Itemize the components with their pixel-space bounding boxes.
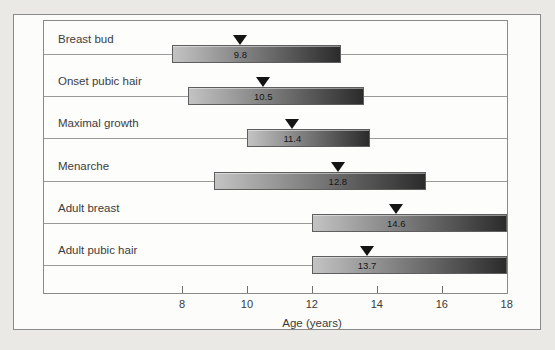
range-bar [312, 214, 507, 232]
row-label: Menarche [58, 160, 109, 173]
mean-value-label: 10.5 [254, 87, 273, 105]
x-axis-tick [312, 286, 313, 293]
mean-marker-triangle-icon [331, 162, 345, 172]
row-label: Adult pubic hair [58, 244, 137, 257]
x-axis-tick [442, 286, 443, 293]
row-label: Adult breast [58, 202, 119, 215]
x-axis-tick-label: 18 [501, 298, 513, 310]
mean-value-label: 14.6 [387, 214, 406, 232]
x-axis-tick [247, 286, 248, 293]
row-label: Breast bud [58, 33, 114, 46]
x-axis-title: Age (years) [282, 317, 341, 329]
mean-marker-triangle-icon [233, 35, 247, 45]
range-bar [172, 45, 341, 63]
mean-marker-triangle-icon [360, 246, 374, 256]
row-label: Onset pubic hair [58, 75, 142, 88]
range-bar [312, 256, 507, 274]
x-axis-tick-label: 10 [241, 298, 253, 310]
range-bar [188, 87, 363, 105]
x-axis-tick-label: 12 [306, 298, 318, 310]
row-label: Maximal growth [58, 117, 139, 130]
figure-border-box: Age (years) Breast bud9.8Onset pubic hai… [13, 14, 541, 330]
x-axis-tick [377, 286, 378, 293]
range-bar [214, 172, 425, 190]
figure-canvas: Age (years) Breast bud9.8Onset pubic hai… [0, 0, 555, 350]
x-axis-tick-label: 14 [371, 298, 383, 310]
mean-marker-triangle-icon [256, 77, 270, 87]
plot-area: Age (years) Breast bud9.8Onset pubic hai… [43, 20, 508, 294]
mean-value-label: 11.4 [283, 129, 301, 147]
mean-value-label: 9.8 [234, 45, 247, 63]
mean-marker-triangle-icon [389, 204, 403, 214]
mean-marker-triangle-icon [285, 119, 299, 129]
range-bar [247, 129, 370, 147]
x-axis-tick [182, 286, 183, 293]
x-axis-tick-label: 8 [179, 298, 185, 310]
mean-value-label: 13.7 [358, 256, 377, 274]
x-axis-tick-label: 16 [436, 298, 448, 310]
mean-value-label: 12.8 [329, 172, 348, 190]
